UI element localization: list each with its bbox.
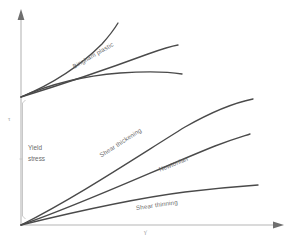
bingham-curves-group	[21, 23, 182, 97]
axes-group	[18, 9, 284, 228]
rheogram-figure: Bingham plastic Shear thickening Newtoni…	[0, 0, 290, 247]
chart-canvas	[0, 0, 290, 247]
yield-stress-label-line2: stress	[28, 153, 45, 164]
yield-stress-label-line1: Yield	[28, 142, 45, 153]
curve-bingham-plastic	[21, 23, 118, 97]
yield-stress-bracket	[20, 100, 26, 219]
x-axis-arrowhead	[273, 222, 284, 229]
x-axis-label: γ̇	[144, 229, 147, 235]
curve-bingham-pseudoplastic	[21, 72, 182, 97]
yield-stress-label: Yield stress	[28, 142, 45, 164]
y-axis-arrowhead	[18, 9, 25, 20]
curve-newtonian	[21, 134, 250, 225]
y-axis-label: τ	[8, 116, 10, 122]
